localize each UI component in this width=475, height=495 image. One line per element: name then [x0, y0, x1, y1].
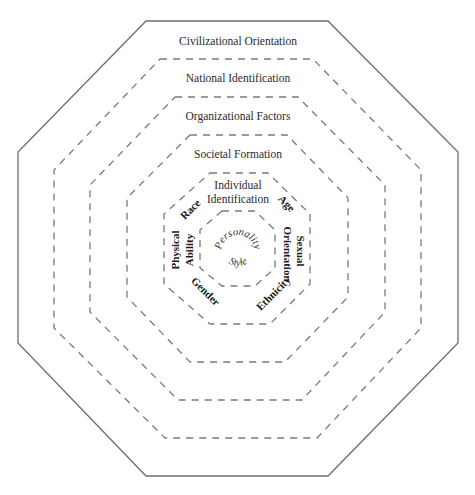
- label-individual-line1: Individual: [214, 179, 261, 191]
- label-personality: Personality: [212, 226, 264, 251]
- label-societal-formation: Societal Formation: [194, 148, 282, 160]
- label-ethnicity: Ethnicity: [254, 273, 294, 313]
- label-race: Race: [178, 197, 203, 222]
- label-ability: Ability: [183, 233, 195, 266]
- label-individual-line2: Identification: [207, 193, 269, 205]
- ring-societal-formation: [127, 135, 348, 362]
- label-gender: Gender: [189, 274, 223, 308]
- label-organizational-factors: Organizational Factors: [186, 110, 291, 123]
- label-age: Age: [276, 192, 298, 214]
- label-sexual: Sexual: [295, 235, 307, 266]
- ring-personality-style: [200, 211, 275, 286]
- label-physical: Physical: [169, 230, 181, 269]
- ring-organizational-factors: [90, 97, 385, 400]
- label-civilizational-orientation: Civilizational Orientation: [179, 35, 297, 47]
- ring-civilizational-orientation: [18, 21, 458, 476]
- diagram-canvas: Civilizational Orientation National Iden…: [0, 0, 475, 495]
- label-national-identification: National Identification: [186, 72, 291, 84]
- label-style: Style: [227, 255, 248, 268]
